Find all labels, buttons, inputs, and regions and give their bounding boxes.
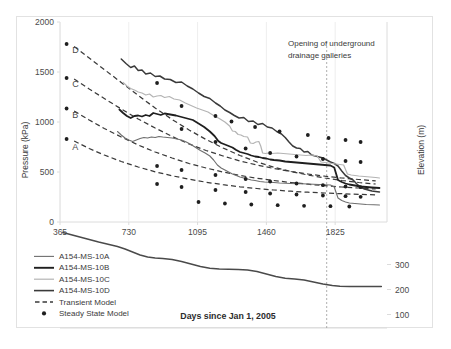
x-tick-label: 1095 (188, 227, 207, 237)
steady-state-point-12 (344, 138, 348, 142)
steady-state-point-25 (244, 177, 248, 181)
steady-state-point-14 (180, 127, 184, 131)
opening-annotation-line2: drainage galleries (288, 51, 351, 60)
x-tick-label: 1460 (257, 227, 276, 237)
y2-tick-label: 200 (395, 285, 409, 295)
chart-figure: 0500100015002000365730109514601825100200… (0, 0, 451, 349)
steady-state-point-6 (214, 114, 218, 118)
steady-state-point-5 (180, 104, 184, 108)
series-curve-A154-MS-10D (121, 59, 379, 192)
steady-state-point-11 (327, 136, 331, 140)
y2-axis-title: Elevation (m) (416, 125, 426, 175)
steady-state-point-41 (223, 202, 227, 206)
y-axis-title: Pressure (kPa) (20, 121, 30, 178)
steady-state-point-30 (359, 185, 363, 189)
steady-state-point-23 (180, 168, 184, 172)
curve-label-B: B (72, 110, 78, 120)
steady-state-point-26 (268, 180, 272, 184)
steady-state-point-1 (65, 76, 69, 80)
legend-marker-5 (42, 311, 46, 315)
steady-state-point-19 (321, 157, 325, 161)
curve-label-D: D (72, 45, 79, 55)
curve-label-A: A (72, 142, 78, 152)
steady-state-point-17 (268, 151, 272, 155)
legend-label-1: A154-MS-10B (59, 263, 109, 272)
x-tick-label: 1825 (326, 227, 345, 237)
steady-state-point-32 (180, 185, 184, 189)
legend-label-0: A154-MS-10A (59, 252, 110, 261)
steady-state-point-38 (344, 194, 348, 198)
steady-state-point-29 (344, 185, 348, 189)
steady-state-point-0 (65, 42, 69, 46)
legend-label-3: A154-MS-10D (59, 286, 110, 295)
steady-state-point-10 (306, 133, 310, 137)
steady-state-point-20 (344, 159, 348, 163)
steady-state-point-27 (295, 182, 299, 186)
curve-label-C: C (72, 79, 79, 89)
steady-state-point-22 (155, 164, 159, 168)
steady-state-point-37 (321, 194, 325, 198)
y-tick-label: 1000 (35, 117, 54, 127)
steady-state-point-4 (155, 81, 159, 85)
steady-state-point-35 (268, 192, 272, 196)
steady-state-point-39 (359, 195, 363, 199)
y2-tick-label: 300 (395, 260, 409, 270)
y-tick-label: 2000 (35, 17, 54, 27)
y-tick-label: 1500 (35, 67, 54, 77)
legend-label-4: Transient Model (59, 298, 116, 307)
chart-svg: 0500100015002000365730109514601825100200… (0, 0, 451, 349)
steady-state-point-15 (214, 140, 218, 144)
steady-state-point-28 (321, 183, 325, 187)
y-tick-label: 0 (49, 217, 54, 227)
elevation-curve (63, 233, 382, 287)
y2-tick-label: 100 (395, 310, 409, 320)
steady-state-point-34 (244, 190, 248, 194)
steady-state-point-31 (155, 182, 159, 186)
steady-state-point-21 (359, 160, 363, 164)
x-axis-title: Days since Jan 1, 2005 (180, 311, 275, 321)
steady-state-point-24 (214, 173, 218, 177)
steady-state-point-13 (359, 140, 363, 144)
opening-annotation-line1: Opening of underground (288, 39, 375, 48)
y-tick-label: 500 (40, 167, 54, 177)
x-tick-label: 365 (53, 227, 67, 237)
steady-state-point-44 (302, 204, 306, 208)
steady-state-point-33 (214, 188, 218, 192)
steady-state-point-16 (244, 147, 248, 151)
steady-state-point-46 (347, 205, 351, 209)
steady-state-point-42 (249, 203, 253, 207)
steady-state-point-7 (230, 120, 234, 124)
steady-state-point-43 (276, 203, 280, 207)
steady-state-point-3 (65, 137, 69, 141)
steady-state-point-9 (278, 130, 282, 134)
steady-state-point-40 (197, 200, 201, 204)
legend-label-5: Steady State Model (59, 309, 129, 318)
legend-label-2: A154-MS-10C (59, 275, 110, 284)
steady-state-point-2 (65, 107, 69, 111)
x-tick-label: 730 (122, 227, 136, 237)
steady-state-point-18 (295, 155, 299, 159)
steady-state-point-45 (329, 204, 333, 208)
steady-state-point-8 (253, 125, 257, 129)
steady-state-point-36 (295, 193, 299, 197)
